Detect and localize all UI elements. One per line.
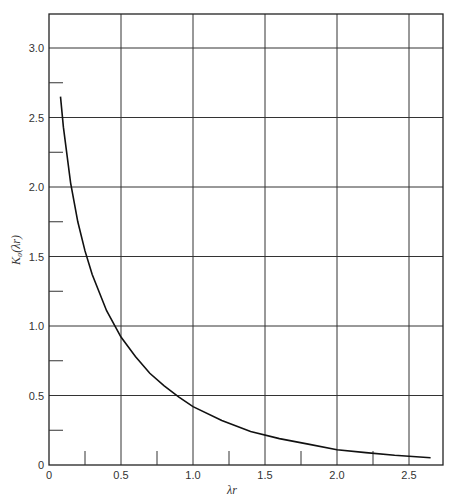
grid-lines [49,14,443,465]
y-tick-label: 1.0 [29,320,44,332]
x-axis-label: λr [226,483,237,497]
y-tick-label: 3.0 [29,42,44,54]
x-tick-labels: 00.51.01.52.02.5 [46,469,417,481]
x-tick-label: 2.0 [329,469,344,481]
y-axis-label: K₀(λr) [9,235,23,266]
chart: 00.51.01.52.02.53.0 00.51.01.52.02.5 λr … [0,0,459,504]
x-tick-label: 0 [46,469,52,481]
x-tick-label: 1.0 [185,469,200,481]
minor-ticks [49,83,373,465]
x-tick-label: 0.5 [113,469,128,481]
x-tick-label: 2.5 [401,469,416,481]
x-tick-label: 1.5 [257,469,272,481]
y-tick-label: 0 [38,459,44,471]
k0-curve [61,97,431,458]
y-tick-label: 1.5 [29,251,44,263]
y-tick-label: 0.5 [29,390,44,402]
y-tick-label: 2.0 [29,181,44,193]
plot-frame [49,14,443,465]
y-tick-labels: 00.51.01.52.02.53.0 [29,42,44,471]
y-tick-label: 2.5 [29,112,44,124]
